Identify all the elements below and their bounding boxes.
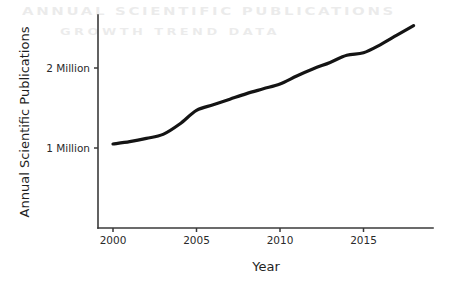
x-tick-label: 2010 <box>267 234 294 246</box>
x-axis-title: Year <box>251 259 280 274</box>
x-axis-tick-labels: 2000200520102015 <box>100 234 377 246</box>
line-chart-plot: 1 Million2 Million 2000200520102015 Year… <box>0 0 452 281</box>
x-tick-label: 2000 <box>100 234 127 246</box>
y-tick-label: 1 Million <box>46 142 90 154</box>
y-axis-tick-labels: 1 Million2 Million <box>46 62 90 154</box>
y-tick-label: 2 Million <box>46 62 90 74</box>
chart-figure: ANNUAL SCIENTIFIC PUBLICATIONS GROWTH TR… <box>0 0 452 281</box>
y-axis-title: Annual Scientific Publications <box>17 26 32 217</box>
x-tick-label: 2015 <box>350 234 377 246</box>
publications-trend-line <box>113 26 414 144</box>
x-tick-label: 2005 <box>183 234 210 246</box>
